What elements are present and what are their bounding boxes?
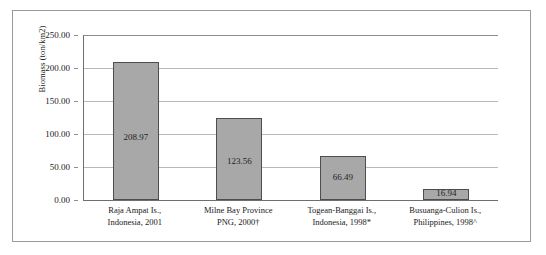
x-axis-category-label-line: PNG, 2000† [187,217,291,229]
bar-value-label: 123.56 [227,156,252,166]
x-axis-category-label-line: Milne Bay Province [187,205,291,217]
x-axis-category-label: Milne Bay ProvincePNG, 2000† [187,205,291,228]
x-axis-category-label-line: Togean-Banggai Is., [290,205,394,217]
bars-group: 208.97123.5666.4916.94 [84,35,498,200]
bar-slot: 208.97 [84,35,188,200]
chart-figure: Biomass (ton/km2) 0.0050.00100.00150.002… [0,0,546,255]
x-axis-category-label: Busuanga-Culion Is.,Philippines, 1998^ [394,205,498,228]
bar-slot: 66.49 [291,35,395,200]
y-axis-tick-label: 100.00 [22,129,70,139]
bar-value-label: 16.94 [436,188,456,198]
bar-slot: 123.56 [188,35,292,200]
y-axis-tick-label: 0.00 [22,195,70,205]
y-axis-tick-label: 250.00 [22,30,70,40]
x-axis-category-label-line: Raja Ampat Is., [83,205,187,217]
x-axis-category-labels: Raja Ampat Is.,Indonesia, 2001Milne Bay … [83,205,497,239]
bar[interactable] [113,62,159,200]
bar-slot: 16.94 [395,35,499,200]
bar-value-label: 66.49 [333,172,353,182]
y-axis-tick-mark [74,35,78,36]
y-axis-tick-mark [74,200,78,201]
bar-value-label: 208.97 [123,132,148,142]
y-axis-tick-labels: 0.0050.00100.00150.00200.00250.00 [22,25,70,210]
x-axis-category-label-line: Indonesia, 2001 [83,217,187,229]
y-axis-tick-mark [74,101,78,102]
x-axis-category-label: Raja Ampat Is.,Indonesia, 2001 [83,205,187,228]
x-axis-category-label: Togean-Banggai Is.,Indonesia, 1998* [290,205,394,228]
y-axis-tick-mark [74,134,78,135]
x-axis-category-label-line: Busuanga-Culion Is., [394,205,498,217]
y-axis-tick-mark [74,167,78,168]
y-axis-tick-label: 150.00 [22,96,70,106]
x-axis-category-label-line: Philippines, 1998^ [394,217,498,229]
y-axis-tick-label: 50.00 [22,162,70,172]
y-axis-tick-label: 200.00 [22,63,70,73]
y-axis-tick-mark [74,68,78,69]
x-axis-category-label-line: Indonesia, 1998* [290,217,394,229]
plot-area: 208.97123.5666.4916.94 [83,35,498,201]
